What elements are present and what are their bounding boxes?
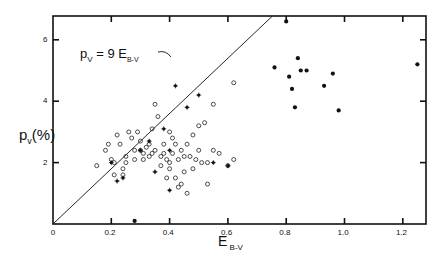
scatter-plot [0, 0, 445, 258]
y-axis-label: pv(%) [19, 126, 55, 146]
y-tick-label: 2 [43, 158, 47, 167]
y-label-text: pv(%) [19, 126, 55, 143]
y-tick-label: 6 [43, 35, 47, 44]
data-points [95, 19, 420, 223]
x-tick-label: 0.2 [104, 228, 115, 237]
line-annotation: pV = 9 EB-V [80, 46, 139, 64]
y-tick-label: 4 [43, 96, 47, 105]
x-tick-label: 0 [51, 228, 55, 237]
x-tick-label: 1.2 [396, 228, 407, 237]
x-tick-label: 1.0 [338, 228, 349, 237]
x-tick-label: 0.8 [279, 228, 290, 237]
x-tick-label: 0.4 [163, 228, 174, 237]
x-tick-label: 0.6 [221, 228, 232, 237]
